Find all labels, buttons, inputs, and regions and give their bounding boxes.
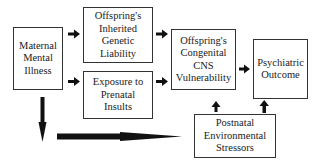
arrow-right-icon bbox=[156, 77, 168, 86]
arrow-right-large-icon bbox=[57, 132, 182, 141]
arrow-down-icon bbox=[39, 97, 47, 142]
arrow-up-icon bbox=[260, 100, 270, 113]
arrow-right-icon bbox=[68, 30, 80, 39]
arrow-up-icon bbox=[212, 101, 221, 112]
arrow-right-icon bbox=[156, 30, 168, 39]
arrow-right-icon bbox=[68, 77, 80, 86]
arrow-right-icon bbox=[239, 65, 250, 74]
arrows-layer bbox=[0, 0, 317, 164]
